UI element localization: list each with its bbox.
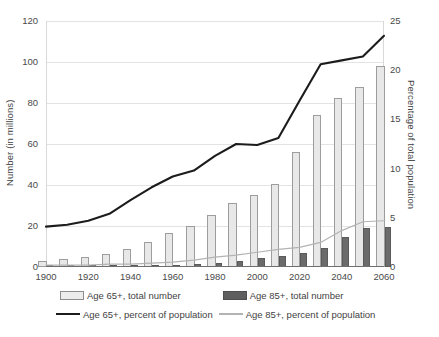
legend-label-age85-total: Age 85+, total number (250, 290, 344, 301)
y-axis-left-tick-label: 40 (14, 179, 38, 190)
x-axis-tick-label: 2020 (280, 271, 320, 282)
line-age85-percent (46, 221, 384, 265)
x-axis-tick-label: 2040 (322, 271, 362, 282)
line-dark-swatch-icon (56, 313, 80, 315)
y-axis-left-tick-label: 80 (14, 97, 38, 108)
y-axis-left-tick-label: 120 (14, 15, 38, 26)
x-axis-tick-label: 2000 (237, 271, 277, 282)
legend-item-age65-total[interactable]: Age 65+, total number (60, 290, 181, 301)
line-age65-percent (46, 36, 384, 227)
line-series-group (46, 21, 384, 267)
y-axis-right-title: Percentage of total population (404, 85, 418, 205)
x-axis-tick-label: 1960 (153, 271, 193, 282)
legend-label-age85-percent: Age 85+, percent of population (246, 309, 376, 320)
line-light-swatch-icon (219, 313, 243, 314)
y-axis-right-tick-label: 25 (390, 15, 414, 26)
y-axis-right-tick-label: 10 (390, 163, 414, 174)
bar-dark-swatch-icon (223, 291, 247, 300)
x-axis-tick-label: 1980 (195, 271, 235, 282)
x-axis-tick-label: 2060 (364, 271, 404, 282)
x-axis-tick-label: 1940 (111, 271, 151, 282)
plot-area (46, 21, 384, 267)
bar-light-swatch-icon (60, 291, 84, 300)
bar-age85-total (385, 227, 392, 267)
y-axis-left-tick-label: 20 (14, 220, 38, 231)
chart-container: Number (in millions) Percentage of total… (0, 0, 439, 337)
chart-legend: Age 65+, total number Age 85+, total num… (46, 288, 406, 321)
y-axis-left-tick-label: 100 (14, 56, 38, 67)
legend-label-age65-percent: Age 65+, percent of population (83, 309, 213, 320)
legend-item-age85-total[interactable]: Age 85+, total number (223, 290, 344, 301)
y-axis-right-tick-label: 5 (390, 212, 414, 223)
legend-item-age65-percent[interactable]: Age 65+, percent of population (56, 309, 213, 320)
legend-row-2: Age 65+, percent of population Age 85+, … (46, 307, 406, 321)
legend-label-age65-total: Age 65+, total number (87, 290, 181, 301)
y-axis-left-tick-label: 60 (14, 138, 38, 149)
legend-item-age85-percent[interactable]: Age 85+, percent of population (219, 309, 376, 320)
y-axis-right-tick-label: 20 (390, 64, 414, 75)
legend-row-1: Age 65+, total number Age 85+, total num… (46, 288, 406, 302)
x-axis-tick-label: 1920 (68, 271, 108, 282)
x-axis-tick-label: 1900 (26, 271, 66, 282)
y-axis-right-tick-label: 15 (390, 113, 414, 124)
x-axis-baseline (46, 266, 384, 267)
